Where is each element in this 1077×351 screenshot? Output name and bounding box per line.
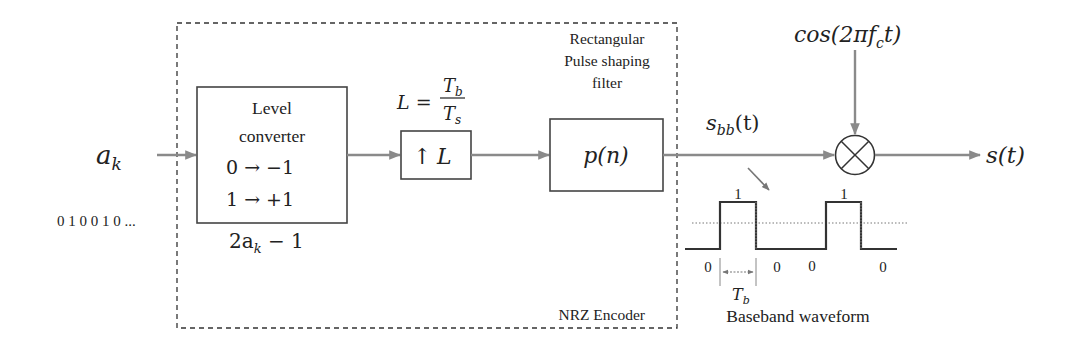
baseband-signal-label: sbb(t)	[706, 111, 760, 138]
waveform-pointer-arrow	[748, 168, 769, 190]
filter-title-line3: filter	[592, 74, 623, 91]
upsample-ratio: L = Tb Ts	[396, 75, 465, 127]
input-symbol: ak	[96, 140, 122, 174]
low-bit-label-3: 0	[808, 258, 816, 274]
block-diagram: ak 0 1 0 0 1 0 ... NRZ Encoder Level con…	[0, 0, 1077, 351]
svg-text:Tb: Tb	[443, 75, 463, 99]
upsampler-box	[401, 131, 471, 179]
low-bit-label-4: 0	[879, 259, 887, 275]
low-bit-label-1: 0	[704, 259, 712, 275]
waveform-caption: Baseband waveform	[726, 306, 870, 326]
filter-title-line1: Rectangular	[570, 30, 646, 47]
level-converter-title-line1: Level	[252, 98, 292, 118]
level-map-one: 1 → +1	[226, 188, 294, 210]
mixer-icon	[836, 136, 875, 175]
output-signal-label: s(t)	[986, 142, 1025, 168]
input-bit-sequence: 0 1 0 0 1 0 ...	[57, 213, 136, 229]
pulse-shaping-filter-block: p(n)	[550, 119, 663, 191]
baseband-waveform: 1 1 0 0 0 0 Tb Baseband waveform	[685, 186, 907, 326]
bit-period-label: Tb	[732, 285, 750, 307]
level-converter-block: Level converter 0 → −1 1 → +1	[197, 87, 347, 223]
svg-text:ak: ak	[96, 140, 122, 174]
nrz-waveform-trace	[685, 202, 897, 249]
high-bit-label-2: 1	[840, 186, 848, 202]
pulse-filter-label: p(n)	[583, 143, 628, 168]
nrz-encoder-label: NRZ Encoder	[558, 306, 645, 323]
carrier-label: cos(2πfct)	[794, 22, 901, 51]
upsampler-block: ↑ L	[401, 131, 471, 179]
svg-text:L =: L =	[396, 91, 432, 113]
low-bit-label-2: 0	[773, 259, 781, 275]
upsample-factor: L	[436, 144, 452, 169]
high-bit-label-1: 1	[734, 186, 742, 202]
filter-title-line2: Pulse shaping	[564, 52, 650, 69]
level-converter-formula: 2ak − 1	[229, 229, 304, 256]
up-arrow-icon: ↑	[413, 144, 431, 169]
level-map-zero: 0 → −1	[226, 156, 294, 178]
svg-text:Ts: Ts	[443, 103, 461, 127]
level-converter-title-line2: converter	[239, 126, 305, 146]
